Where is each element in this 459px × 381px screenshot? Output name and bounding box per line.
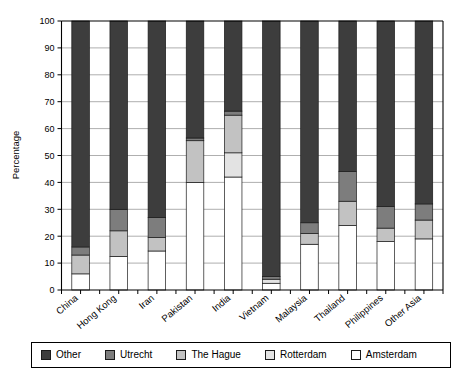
y-tick-label: 20 (44, 232, 54, 242)
bar-segment (301, 244, 319, 290)
bar-segment (148, 238, 166, 251)
bar-segment (339, 225, 357, 290)
bar-segment (72, 21, 90, 247)
y-tick-label: 80 (44, 70, 54, 80)
bar-segment (263, 21, 281, 277)
x-axis-category-label: Philippines (343, 292, 385, 330)
legend-swatch-icon (176, 350, 186, 360)
x-axis-labels: ChinaHong KongIranPakistanIndiaVietnamMa… (54, 292, 424, 331)
bar-segment (110, 256, 128, 290)
x-axis-category-label: Malaysia (273, 292, 309, 325)
bar-segment (148, 21, 166, 217)
legend-swatch-icon (265, 350, 275, 360)
legend-item[interactable]: Rotterdam (265, 350, 351, 360)
bar-segment (186, 138, 204, 141)
y-tick-label: 10 (44, 258, 54, 268)
bar-segment (224, 177, 242, 290)
bar-segment (339, 172, 357, 202)
bar-segment (72, 255, 90, 274)
bar-segment (301, 21, 319, 223)
bar-segment (415, 239, 433, 290)
x-axis-category-label: Iran (137, 292, 157, 311)
bar-segment (148, 251, 166, 290)
y-tick-label: 90 (44, 43, 54, 53)
bar-segment (263, 279, 281, 283)
bar-segment (377, 228, 395, 241)
x-axis-category-label: India (210, 292, 233, 314)
y-tick-label: 0 (49, 285, 54, 295)
bar-segment (148, 217, 166, 237)
bar-segment (377, 21, 395, 207)
y-axis-title: Percentage (10, 131, 21, 180)
bar-segment (72, 247, 90, 255)
x-axis-category-label: Vietnam (237, 292, 271, 323)
bar-segment (415, 220, 433, 239)
bar-segment (263, 277, 281, 280)
legend-swatch-icon (41, 350, 51, 360)
bar-segment (301, 223, 319, 234)
legend-item[interactable]: Other (41, 350, 105, 360)
bar-segment (224, 21, 242, 111)
x-axis-category-label: Pakistan (159, 292, 194, 324)
bar-segment (224, 115, 242, 153)
y-axis-ticks: 0102030405060708090100 (39, 16, 61, 295)
bar-segment (415, 21, 433, 204)
bar-segment (339, 201, 357, 225)
bar-segment (186, 182, 204, 290)
bar-segment (110, 231, 128, 257)
bar-segment (186, 21, 204, 138)
bar-segment (377, 207, 395, 229)
y-tick-label: 60 (44, 124, 54, 134)
y-tick-label: 70 (44, 97, 54, 107)
bar-segment (224, 153, 242, 177)
legend-item[interactable]: Amsterdam (351, 350, 441, 360)
x-axis-ticks (62, 290, 444, 294)
y-tick-label: 50 (44, 151, 54, 161)
legend-swatch-icon (351, 350, 361, 360)
chart-legend: OtherUtrechtThe HagueRotterdamAmsterdam (31, 342, 451, 368)
chart-figure: Percentage 0102030405060708090100 ChinaH… (0, 0, 459, 381)
legend-label: Rotterdam (280, 350, 327, 360)
bar-segment (415, 204, 433, 220)
legend-swatch-icon (105, 350, 115, 360)
x-axis-category-label: Other Asia (382, 292, 424, 329)
bar-segment (339, 21, 357, 172)
legend-item[interactable]: Utrecht (105, 350, 176, 360)
bar-segment (377, 242, 395, 290)
y-tick-label: 100 (39, 16, 54, 26)
bar-segment (224, 111, 242, 115)
x-axis-category-label: Hong Kong (75, 292, 118, 331)
legend-label: The Hague (191, 350, 240, 360)
bar-segment (301, 234, 319, 245)
bar-segment (72, 274, 90, 290)
legend-item[interactable]: The Hague (176, 350, 265, 360)
bar-segment (110, 209, 128, 231)
legend-label: Other (56, 350, 81, 360)
y-tick-label: 30 (44, 205, 54, 215)
bar-segment (110, 21, 128, 209)
bar-segment (263, 283, 281, 290)
x-axis-category-label: China (54, 292, 81, 317)
y-tick-label: 40 (44, 178, 54, 188)
legend-label: Amsterdam (366, 350, 417, 360)
bar-segment (186, 141, 204, 183)
x-axis-category-label: Thailand (312, 292, 347, 324)
stacked-bar-chart: Percentage 0102030405060708090100 ChinaH… (0, 0, 459, 342)
legend-label: Utrecht (120, 350, 152, 360)
